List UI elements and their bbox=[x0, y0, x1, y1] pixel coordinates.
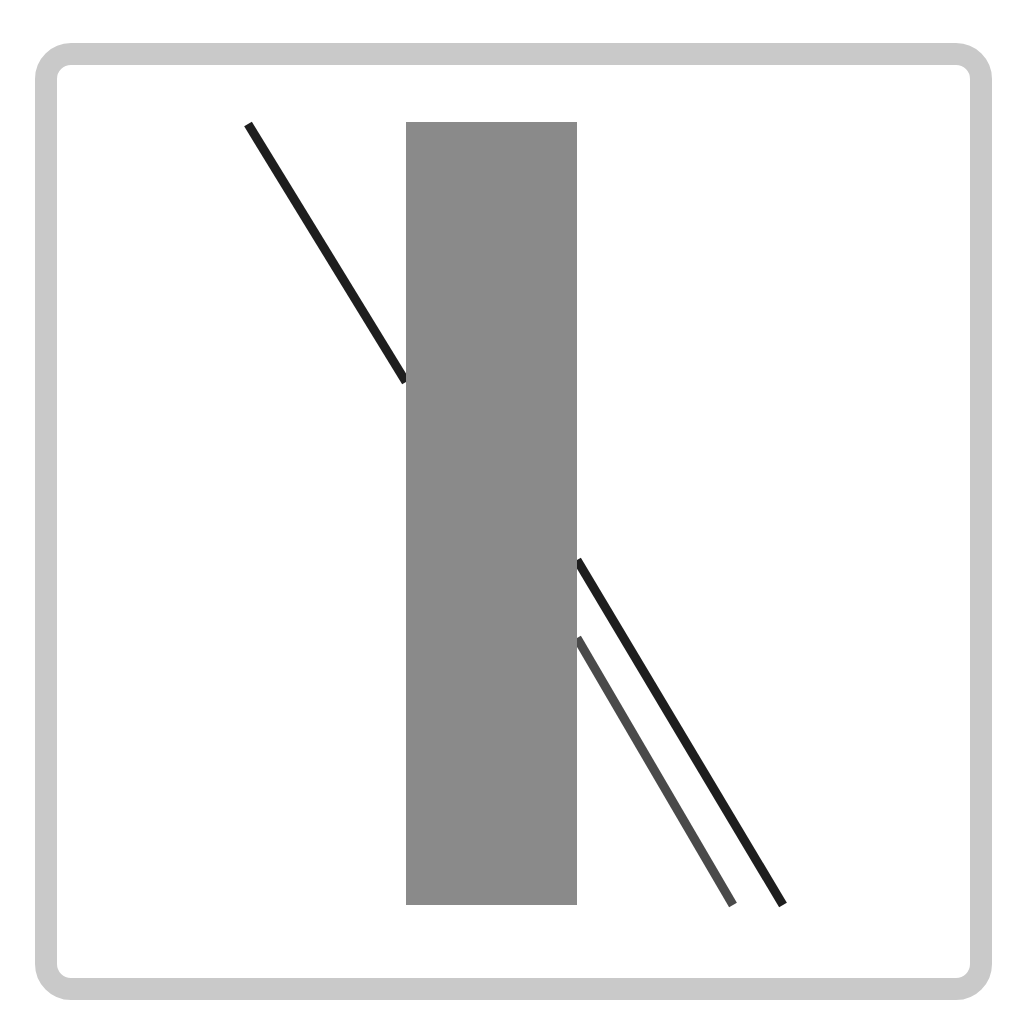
upper-diagonal-line bbox=[248, 124, 406, 382]
illusion-canvas bbox=[0, 0, 1025, 1031]
lower-diagonal-line-dark bbox=[577, 560, 783, 905]
occluding-rectangle bbox=[406, 122, 577, 905]
lower-diagonal-line-gray bbox=[577, 638, 733, 905]
